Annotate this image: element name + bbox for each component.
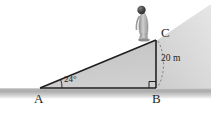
height-measure-label: 20 m	[161, 54, 180, 64]
person-head	[137, 6, 145, 14]
hill-triangle-diagram: A B C 24° 20 m	[0, 0, 211, 116]
ground-band	[0, 89, 211, 99]
vertex-label-a: A	[34, 92, 43, 105]
vertex-label-b: B	[152, 92, 161, 105]
person-figure	[136, 6, 150, 42]
person-feet	[138, 38, 150, 41]
vertex-label-c: C	[161, 26, 170, 39]
hill-slope-extension	[156, 4, 211, 88]
angle-label-a: 24°	[64, 75, 77, 84]
